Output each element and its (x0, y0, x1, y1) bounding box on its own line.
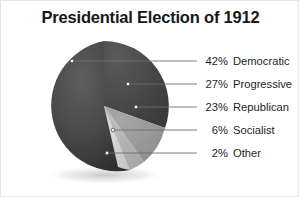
leader-marker-republican (134, 105, 138, 109)
leader-marker-other (105, 151, 109, 155)
pie-slices (51, 41, 169, 171)
legend-item-republican: 23%Republican (202, 99, 289, 115)
legend-label-progressive: Progressive (233, 76, 292, 92)
legend-percent-other: 2% (202, 145, 228, 161)
legend-item-socialist: 6%Socialist (202, 122, 275, 138)
legend-label-democratic: Democratic (233, 53, 290, 69)
leader-marker-progressive (126, 82, 130, 86)
chart-figure: Presidential Election of 1912 (0, 0, 299, 197)
legend-label-socialist: Socialist (233, 122, 275, 138)
legend-percent-republican: 23% (202, 99, 228, 115)
legend-percent-democratic: 42% (202, 53, 228, 69)
legend-item-other: 2%Other (202, 145, 261, 161)
legend-percent-progressive: 27% (202, 76, 228, 92)
legend-item-democratic: 42%Democratic (202, 53, 290, 69)
legend-label-republican: Republican (233, 99, 289, 115)
pie-plot-area: 42%Democratic 27%Progressive 23%Republic… (1, 29, 299, 195)
legend-item-progressive: 27%Progressive (202, 76, 292, 92)
chart-title: Presidential Election of 1912 (1, 8, 299, 27)
leader-marker-democratic (70, 59, 74, 63)
legend-label-other: Other (233, 145, 261, 161)
leader-marker-socialist (111, 128, 115, 132)
legend-percent-socialist: 6% (202, 122, 228, 138)
